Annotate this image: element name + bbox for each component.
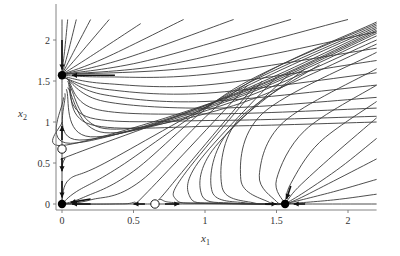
x-tick-label: 2 xyxy=(346,215,351,226)
x-tick-label: 0.5 xyxy=(127,215,140,226)
phase-portrait: 00.511.5200.511.52 x1 x2 xyxy=(0,0,400,256)
y-tick-label: 1 xyxy=(45,117,50,128)
trajectory xyxy=(285,138,377,204)
trajectory xyxy=(62,25,377,204)
trajectory xyxy=(62,20,184,75)
y-tick-label: 0.5 xyxy=(38,158,51,169)
trajectory xyxy=(285,118,377,204)
stable-equilibrium-point xyxy=(58,200,66,208)
arrow-icon xyxy=(59,126,64,140)
unstable-equilibrium-point xyxy=(151,200,159,208)
x-tick-label: 0 xyxy=(60,215,65,226)
x-tick-label: 1.5 xyxy=(270,215,283,226)
trajectories xyxy=(53,20,377,205)
trajectory xyxy=(66,36,376,137)
y-tick-label: 2 xyxy=(45,35,50,46)
x-axis-label: x1 xyxy=(200,232,210,247)
y-tick-label: 1.5 xyxy=(38,76,51,87)
stable-equilibrium-point xyxy=(58,71,66,79)
x-tick-label: 1 xyxy=(203,215,208,226)
arrow-icon xyxy=(265,201,276,206)
trajectory xyxy=(285,159,377,204)
stable-equilibrium-point xyxy=(281,200,289,208)
y-tick-label: 0 xyxy=(45,199,50,210)
trajectory xyxy=(221,65,320,205)
y-axis-label: x2 xyxy=(17,107,27,122)
trajectory xyxy=(62,33,376,140)
unstable-equilibrium-point xyxy=(58,145,66,153)
trajectory xyxy=(69,44,376,129)
